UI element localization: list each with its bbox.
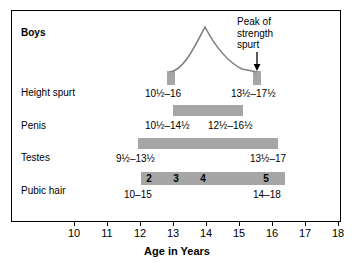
x-tick-10 [74, 222, 75, 226]
pubic-hair-stage-5: 5 [259, 172, 273, 185]
x-tick-label-10: 10 [59, 227, 89, 240]
x-tick-15 [239, 222, 240, 226]
annotation-line-1: Peak of [237, 16, 273, 28]
row-label-testes: Testes [21, 152, 50, 163]
penis-onset-range: 10½–14½ [145, 120, 190, 131]
x-axis-title: Age in Years [0, 245, 354, 257]
testes-onset-range: 9½–13½ [116, 153, 155, 164]
x-tick-label-18: 18 [323, 227, 353, 240]
x-tick-label-14: 14 [191, 227, 221, 240]
peak-strength-spurt-annotation: Peak of strength spurt [237, 16, 273, 51]
x-tick-label-17: 17 [290, 227, 320, 240]
page-title: Boys [21, 27, 45, 38]
pubic-hair-stage-3: 3 [169, 172, 183, 185]
row-label-height-spurt: Height spurt [21, 87, 75, 98]
pubic-hair-onset-range: 10–15 [124, 189, 152, 200]
x-tick-label-13: 13 [158, 227, 188, 240]
row-label-penis: Penis [21, 120, 46, 131]
x-axis-line [11, 221, 341, 222]
puberty-timeline-figure: Boys Height spurt Penis Testes Pubic hai… [0, 0, 354, 266]
row-label-pubic-hair: Pubic hair [21, 185, 65, 196]
x-tick-label-15: 15 [224, 227, 254, 240]
x-tick-label-16: 16 [257, 227, 287, 240]
x-tick-14 [206, 222, 207, 226]
x-tick-16 [272, 222, 273, 226]
testes-bar [138, 138, 278, 149]
annotation-line-2: strength [237, 28, 273, 40]
x-tick-18 [338, 222, 339, 226]
height-spurt-onset-marker [167, 71, 175, 85]
pubic-hair-stage-2: 2 [142, 172, 156, 185]
x-tick-12 [140, 222, 141, 226]
penis-bar [173, 105, 243, 116]
testes-completion-range: 13½–17 [250, 153, 286, 164]
height-spurt-completion-range: 13½–17½ [231, 88, 276, 99]
pubic-hair-completion-range: 14–18 [253, 189, 281, 200]
x-tick-17 [305, 222, 306, 226]
annotation-line-3: spurt [237, 39, 273, 51]
height-spurt-peak-marker [253, 71, 261, 85]
x-tick-13 [173, 222, 174, 226]
pubic-hair-stage-4: 4 [196, 172, 210, 185]
height-spurt-onset-range: 10½–16 [145, 88, 181, 99]
penis-completion-range: 12½–16½ [208, 120, 253, 131]
x-tick-label-12: 12 [125, 227, 155, 240]
x-tick-11 [107, 222, 108, 226]
x-tick-label-11: 11 [92, 227, 122, 240]
